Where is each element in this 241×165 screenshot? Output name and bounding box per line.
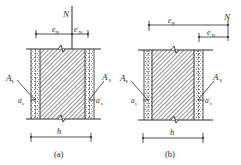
width-label-a: h xyxy=(57,126,61,136)
steel-left-label-a: As xyxy=(5,73,14,84)
force-label-b: N xyxy=(223,12,231,22)
steel-left-label-b: As xyxy=(119,73,128,84)
steel-right-label-a: A′s xyxy=(101,72,111,83)
ecc-prime-label-a: e′N xyxy=(74,25,82,35)
force-label-a: N xyxy=(62,9,70,19)
cover-right-label-a: a′s xyxy=(96,96,103,106)
eccentric-tension-diagram: N eN e′N As as A′s a′s xyxy=(0,0,241,165)
cover-right-label-b: a′s xyxy=(205,96,212,106)
column-section-a xyxy=(26,45,101,122)
cover-left-label-a: as xyxy=(18,96,24,106)
column-section-b xyxy=(138,46,213,123)
panel-a: N eN e′N As as A′s a′s xyxy=(5,6,111,159)
caption-a: (a) xyxy=(54,149,64,159)
ecc-label-b: eN xyxy=(168,16,175,26)
steel-right-label-b: A′s xyxy=(212,72,222,83)
cover-left-label-b: as xyxy=(131,96,137,106)
panel-b: N eN e′N As as A′s a′s h (b) xyxy=(119,12,231,159)
width-label-b: h xyxy=(170,127,174,137)
dimension-eN-b xyxy=(148,20,229,41)
ecc-prime-label-b: e′N xyxy=(207,28,215,38)
ecc-label-a: eN xyxy=(52,25,59,35)
caption-b: (b) xyxy=(165,149,175,159)
